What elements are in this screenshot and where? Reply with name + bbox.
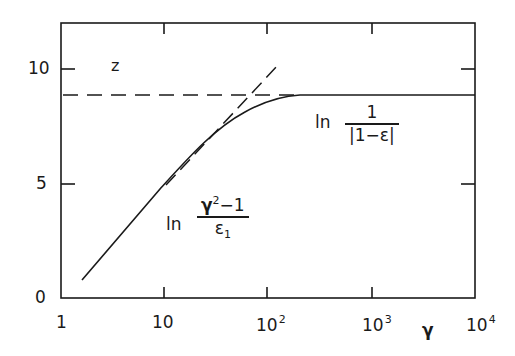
x-tick-1000-base: 10 [362,315,384,335]
den-subscript: 1 [224,228,231,241]
x-tick-label-1000: 103 [362,314,392,334]
annotation-high-numerator: 1 [362,104,381,121]
x-tick-10000-base: 10 [466,315,488,335]
annotation-high-fraction: 1 |1−ε| [345,104,399,144]
x-tick-100-exp: 2 [279,313,286,326]
y-ticks-right [461,69,475,184]
x-ticks-top [164,23,372,34]
y-tick-label-5: 5 [36,175,47,192]
y-tick-label-0: 0 [35,289,46,306]
gamma-symbol: γ [201,195,213,215]
x-tick-label-10000: 104 [466,314,496,334]
y-ticks-left [61,69,75,184]
x-tick-label-10: 10 [152,314,174,331]
annotation-low-ln: ln [166,216,182,233]
x-tick-label-100: 102 [256,314,286,334]
annotation-low-numerator: γ2−1 [197,195,249,214]
x-tick-100-base: 10 [256,315,278,335]
x-ticks-bottom [164,287,372,298]
y-axis-label: z [111,58,119,74]
main-curve [82,95,475,280]
epsilon-symbol: ε [215,218,224,238]
x-tick-10000-exp: 4 [489,313,496,326]
x-tick-label-1: 1 [56,314,67,331]
y-tick-label-10: 10 [28,60,50,77]
plot-frame [61,23,475,298]
x-tick-1000-exp: 3 [385,313,392,326]
chart-plot [0,0,515,356]
asymptote-sloped-dashed [166,64,279,185]
annotation-low-fraction: γ2−1 ε1 [197,195,249,240]
num-rest: −1 [220,195,245,215]
num-exponent: 2 [213,194,220,207]
x-axis-label: γ [422,322,434,339]
annotation-low-denominator: ε1 [211,220,235,240]
annotation-high-denominator: |1−ε| [345,127,399,144]
annotation-high-ln: ln [315,114,331,131]
